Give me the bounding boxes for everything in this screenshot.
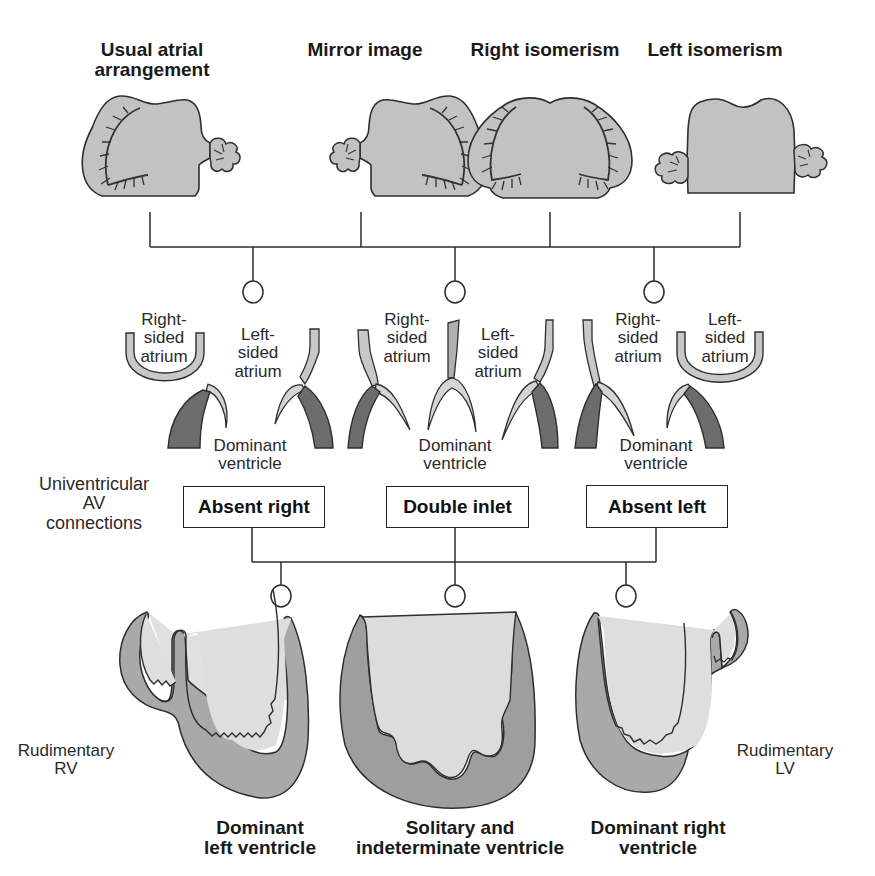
usual-atrial-arrangement-drawing [82, 96, 240, 196]
label-line: atrium [606, 348, 670, 366]
label-left-sided-atrium-3: Left- sided atrium [693, 311, 757, 366]
label-line: Dominant [611, 437, 701, 455]
left-isomerism-drawing [655, 99, 827, 193]
label-dominant-ventricle-3: Dominant ventricle [611, 437, 701, 474]
solitary-indeterminate-ventricle-drawing [340, 612, 535, 808]
label-line: Dominant [205, 437, 295, 455]
label-right-sided-atrium-1: Right- sided atrium [132, 311, 196, 366]
label-dominant-ventricle-2: Dominant ventricle [410, 437, 500, 474]
label-univentricular-av-connections: Univentricular AV connections [28, 475, 160, 533]
connection-connector-lines [252, 528, 656, 585]
label-line: atrium [226, 363, 290, 381]
label-line: LV [735, 760, 835, 778]
label-line: atrium [375, 348, 439, 366]
label-rudimentary-lv: Rudimentary LV [735, 742, 835, 779]
mirror-image-drawing [330, 96, 488, 196]
label-line: atrium [693, 348, 757, 366]
junction-circles-bottom [271, 585, 636, 607]
double-inlet-box: Double inlet [386, 486, 529, 528]
label-line: Univentricular [28, 475, 160, 494]
right-isomerism-drawing [468, 98, 632, 198]
label-line: ventricle [205, 455, 295, 473]
label-right-sided-atrium-2: Right- sided atrium [375, 311, 439, 366]
label-line: Solitary and [340, 818, 580, 838]
label-line: AV [28, 494, 160, 513]
label-line: arrangement [78, 60, 226, 80]
label-line: atrium [466, 363, 530, 381]
label-line: sided [226, 344, 290, 362]
label-left-isomerism: Left isomerism [630, 40, 800, 60]
label-line: sided [375, 329, 439, 347]
label-line: Right- [606, 311, 670, 329]
label-line: ventricle [611, 455, 701, 473]
label-line: ventricle [578, 838, 738, 858]
label-usual-atrial-arrangement: Usual atrial arrangement [78, 40, 226, 80]
label-line: sided [132, 329, 196, 347]
label-line: Dominant right [578, 818, 738, 838]
label-line: Dominant [410, 437, 500, 455]
label-dominant-left-ventricle: Dominant left ventricle [190, 818, 330, 858]
label-line: Rudimentary [735, 742, 835, 760]
label-line: sided [693, 329, 757, 347]
label-line: Right- [132, 311, 196, 329]
label-line: indeterminate ventricle [340, 838, 580, 858]
label-rudimentary-rv: Rudimentary RV [16, 742, 116, 779]
label-left-sided-atrium-1: Left- sided atrium [226, 326, 290, 381]
label-line: Rudimentary [16, 742, 116, 760]
label-line: sided [466, 344, 530, 362]
label-line: Usual atrial [78, 40, 226, 60]
label-line: connections [28, 514, 160, 533]
arrangement-connector-lines [150, 212, 740, 282]
dominant-left-ventricle-drawing [120, 589, 309, 798]
label-line: RV [16, 760, 116, 778]
junction-circles-top [243, 281, 664, 303]
label-line: sided [606, 329, 670, 347]
label-dominant-ventricle-1: Dominant ventricle [205, 437, 295, 474]
absent-right-box: Absent right [183, 486, 325, 528]
label-line: atrium [132, 348, 196, 366]
absent-left-box: Absent left [586, 485, 728, 528]
label-line: ventricle [410, 455, 500, 473]
label-line: Left- [226, 326, 290, 344]
label-right-sided-atrium-3: Right- sided atrium [606, 311, 670, 366]
univentricular-av-connections-diagram: Usual atrial arrangement Mirror image Ri… [0, 0, 875, 876]
label-mirror-image: Mirror image [290, 40, 440, 60]
label-line: Left- [693, 311, 757, 329]
label-line: left ventricle [190, 838, 330, 858]
label-line: Right- [375, 311, 439, 329]
label-left-sided-atrium-2: Left- sided atrium [466, 326, 530, 381]
dominant-right-ventricle-drawing [576, 610, 748, 793]
label-dominant-right-ventricle: Dominant right ventricle [578, 818, 738, 858]
label-line: Left- [466, 326, 530, 344]
label-right-isomerism: Right isomerism [455, 40, 635, 60]
label-line: Dominant [190, 818, 330, 838]
label-solitary-indeterminate-ventricle: Solitary and indeterminate ventricle [340, 818, 580, 858]
